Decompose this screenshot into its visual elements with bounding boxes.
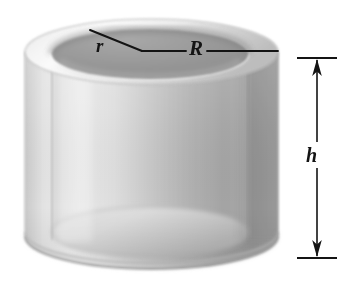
figure-container: r R h — [0, 0, 344, 292]
height-label: h — [306, 145, 317, 165]
hollow-cylinder-illustration — [0, 0, 344, 292]
inner-radius-label: r — [96, 36, 103, 55]
cylinder-hole-interior — [52, 29, 248, 79]
outer-radius-label: R — [189, 38, 203, 59]
